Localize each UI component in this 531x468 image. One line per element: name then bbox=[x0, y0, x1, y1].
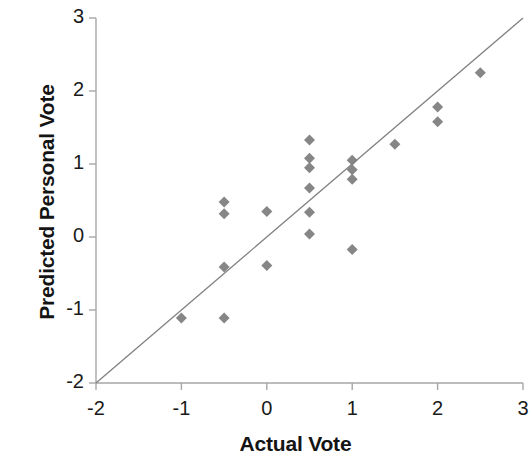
data-point-marker bbox=[347, 164, 358, 175]
x-axis-title: Actual Vote bbox=[0, 432, 531, 456]
data-points bbox=[176, 67, 486, 323]
data-point-marker bbox=[347, 174, 358, 185]
x-axis-tick-label: 2 bbox=[418, 397, 458, 420]
data-point-marker bbox=[389, 139, 400, 150]
data-point-marker bbox=[432, 102, 443, 113]
data-point-marker bbox=[304, 183, 315, 194]
data-point-marker bbox=[347, 244, 358, 255]
data-point-marker bbox=[304, 207, 315, 218]
identity-line-path bbox=[96, 18, 523, 383]
data-point-marker bbox=[304, 153, 315, 164]
y-axis-tick-label: -2 bbox=[50, 370, 84, 393]
data-point-marker bbox=[219, 196, 230, 207]
identity-reference-line bbox=[96, 18, 523, 383]
x-axis-tick-label: 0 bbox=[247, 397, 287, 420]
x-axis-tick-label: 1 bbox=[332, 397, 372, 420]
data-point-marker bbox=[304, 229, 315, 240]
data-point-marker bbox=[219, 313, 230, 324]
x-axis-tick-label: -2 bbox=[76, 397, 116, 420]
data-point-marker bbox=[176, 313, 187, 324]
data-point-marker bbox=[304, 162, 315, 173]
y-axis-tick-label: 3 bbox=[50, 5, 84, 28]
data-point-marker bbox=[261, 260, 272, 271]
data-point-marker bbox=[347, 155, 358, 166]
data-point-marker bbox=[219, 208, 230, 219]
y-axis-title: Predicted Personal Vote bbox=[35, 52, 59, 352]
x-axis-tick-label: -1 bbox=[161, 397, 201, 420]
x-axis-tick-label: 3 bbox=[503, 397, 531, 420]
data-point-marker bbox=[304, 134, 315, 145]
data-point-marker bbox=[432, 116, 443, 127]
data-point-marker bbox=[475, 67, 486, 78]
data-point-marker bbox=[261, 206, 272, 217]
scatter-plot-figure: -2-10123 -2-10123 Actual Vote Predicted … bbox=[0, 0, 531, 468]
